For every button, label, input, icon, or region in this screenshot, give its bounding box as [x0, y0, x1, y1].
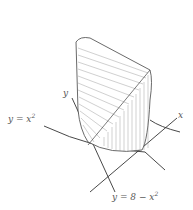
solid-3d-plot [0, 0, 193, 210]
x-axis-label: x [178, 110, 183, 120]
curve-y-equals-8-minus-x-squared [150, 120, 180, 132]
solid-body [76, 38, 152, 153]
y-axis-label: y [63, 88, 68, 98]
curve1-label: y = x2 [8, 112, 35, 124]
curve2-label: y = 8 − x2 [112, 190, 158, 202]
